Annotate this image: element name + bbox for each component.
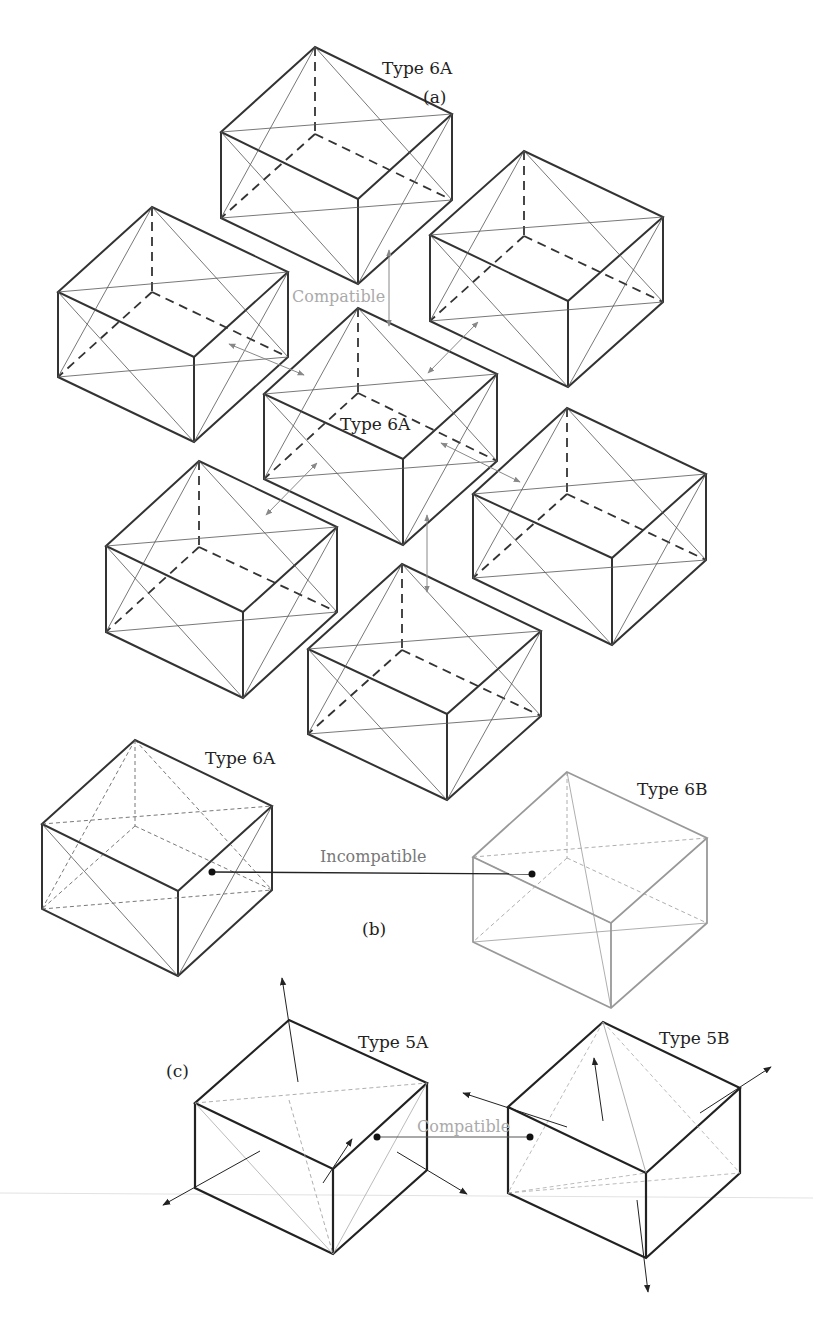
connector-dot-left — [209, 869, 216, 876]
panel-c-label: (c) — [166, 1061, 189, 1081]
type-6a-top-label: Type 6A — [382, 58, 453, 78]
panel-a-label: (a) — [423, 87, 446, 107]
type-5a-label: Type 5A — [358, 1032, 429, 1052]
type-6b-label-b: Type 6B — [637, 779, 708, 799]
octahedron-box-a3 — [430, 151, 663, 387]
figure-canvas: Type 6A (a) Compatible Type 6A Type 6A T… — [0, 0, 813, 1323]
incompatible-label: Incompatible — [320, 847, 427, 866]
type-6a-center-label: Type 6A — [340, 414, 411, 434]
connector-dot-right — [529, 871, 536, 878]
normal-arrows-5b — [463, 1058, 771, 1292]
connector-dot-left — [374, 1134, 381, 1141]
octahedron-box-a2 — [58, 207, 288, 442]
scan-artifact-line — [0, 1193, 813, 1198]
incompatible-connector — [209, 869, 536, 878]
panel-b-label: (b) — [362, 919, 386, 939]
octahedron-box-a1 — [221, 47, 452, 284]
octahedron-box-6b-b — [473, 772, 707, 1008]
octahedron-box-a5 — [473, 408, 706, 645]
octahedron-box-6a-b — [42, 740, 272, 976]
octahedron-box-a7 — [308, 564, 541, 800]
pentagonal-box-5b — [508, 1022, 740, 1258]
type-5b-label: Type 5B — [659, 1028, 730, 1048]
compatible-label-a: Compatible — [292, 287, 385, 306]
compatible-label-c: Compatible — [417, 1117, 510, 1136]
type-6a-label-b: Type 6A — [205, 748, 276, 768]
connector-dot-right — [527, 1134, 534, 1141]
